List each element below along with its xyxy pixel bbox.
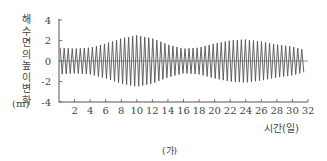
x-tick-label: 4: [87, 105, 93, 116]
x-tick-label: 6: [103, 105, 109, 116]
x-tick-label: 18: [193, 105, 206, 116]
x-tick-label: 32: [302, 105, 315, 116]
x-tick-label: 28: [271, 105, 284, 116]
y-axis-unit: (m): [12, 98, 29, 109]
x-tick-label: 12: [146, 105, 159, 116]
x-tick-label: 2: [71, 105, 77, 116]
x-tick-label: 8: [118, 105, 124, 116]
figure-caption: (가): [162, 144, 177, 157]
y-tick-label: -4: [41, 97, 51, 108]
x-tick-label: 16: [177, 105, 190, 116]
x-tick-label: 20: [208, 105, 221, 116]
x-tick-label: 26: [255, 105, 268, 116]
y-tick-label: 0: [45, 56, 51, 67]
x-axis-label: 시간(일): [264, 120, 299, 135]
y-axis-label: 해수면의 높이 변화: [18, 14, 34, 106]
x-tick-label: 14: [162, 105, 175, 116]
x-tick-label: 24: [239, 105, 252, 116]
y-tick-label: 4: [45, 15, 51, 26]
x-tick-label: 10: [130, 105, 143, 116]
y-tick-label: -2: [41, 76, 51, 87]
y-tick-label: 2: [45, 35, 51, 46]
x-tick-label: 30: [286, 105, 299, 116]
tide-chart: 420-2-4 2468101214161820222426283032: [0, 0, 327, 161]
x-tick-label: 22: [224, 105, 237, 116]
